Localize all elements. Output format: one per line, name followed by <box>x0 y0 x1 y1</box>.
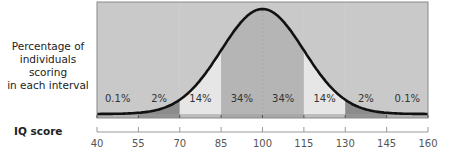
x-tick-label: 115 <box>294 138 313 149</box>
x-tick-label: 70 <box>173 138 186 149</box>
x-tick-label: 160 <box>418 138 437 149</box>
interval-percentage-label: 34% <box>272 93 294 104</box>
interval-percentage-label: 14% <box>313 93 335 104</box>
x-tick-label: 130 <box>336 138 355 149</box>
interval-percentage-label: 0.1% <box>395 93 420 104</box>
interval-percentage-label: 2% <box>358 93 374 104</box>
x-tick-label: 85 <box>215 138 228 149</box>
x-tick-label: 40 <box>91 138 104 149</box>
normal-distribution-chart: 0.1%2%14%34%34%14%2%0.1%4055708510011513… <box>0 0 452 160</box>
x-tick-label: 100 <box>253 138 272 149</box>
interval-percentage-label: 2% <box>151 93 167 104</box>
x-tick-label: 55 <box>132 138 145 149</box>
interval-percentage-label: 34% <box>231 93 253 104</box>
x-tick-label: 145 <box>377 138 396 149</box>
interval-percentage-label: 0.1% <box>105 93 130 104</box>
interval-percentage-label: 14% <box>189 93 211 104</box>
